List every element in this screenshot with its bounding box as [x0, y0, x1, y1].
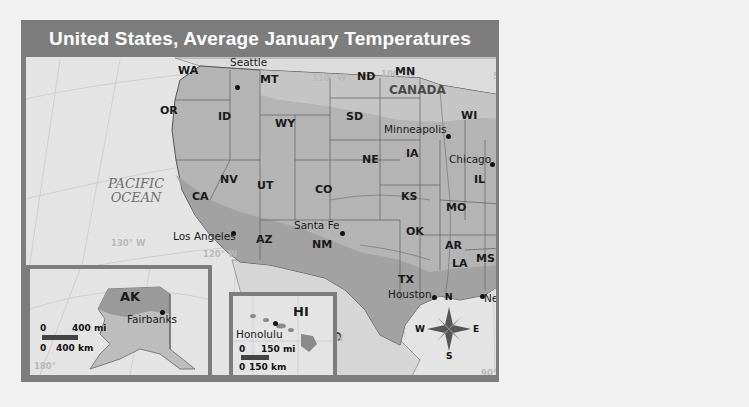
city-label-minneapolis: Minneapolis	[384, 123, 447, 135]
canada-label: CANADA	[389, 83, 446, 97]
state-label-tx: TX	[398, 273, 414, 286]
city-dot-seattle	[235, 85, 240, 90]
city-dot-honolulu	[273, 321, 278, 326]
state-label-mo: MO	[446, 201, 466, 214]
state-label-ut: UT	[257, 179, 273, 192]
grid-label: 50° N	[493, 71, 496, 81]
state-label-la: LA	[452, 257, 468, 270]
city-label-los-angeles: Los Angeles	[173, 230, 236, 242]
compass-s: S	[446, 351, 452, 361]
city-dot-santa-fe	[340, 231, 345, 236]
state-label-wi: WI	[461, 109, 477, 122]
hi-scale-zero-mi: 0	[239, 344, 245, 354]
state-label-or: OR	[160, 104, 178, 117]
city-label-honolulu: Honolulu	[236, 328, 283, 340]
hi-scale-mi: 150 mi	[261, 344, 295, 354]
hi-scale-zero-km: 0	[239, 362, 245, 372]
state-label-ia: IA	[406, 147, 419, 160]
ak-scale-zero-km: 0	[40, 343, 46, 353]
state-label-ar: AR	[445, 239, 462, 252]
city-label-fairbanks: Fairbanks	[127, 313, 177, 325]
city-label-chicago: Chicago	[449, 153, 491, 165]
hi-scale-km: 150 km	[249, 362, 286, 372]
state-label-wy: WY	[275, 117, 295, 130]
grid-label: 130° W	[111, 238, 145, 248]
state-label-ok: OK	[406, 225, 424, 238]
ak-scale-bar	[42, 335, 78, 340]
state-label-il: IL	[474, 173, 485, 186]
pacific-line-2: OCEAN	[108, 191, 164, 205]
state-label-hi: HI	[293, 304, 309, 319]
map-frame: United States, Average January Temperatu…	[21, 20, 499, 382]
state-label-nm: NM	[312, 238, 332, 251]
state-label-nv: NV	[220, 173, 238, 186]
city-label-new-orleans: New Orleans	[484, 292, 496, 304]
state-label-sd: SD	[346, 110, 363, 123]
ak-scale-mi: 400 mi	[72, 323, 106, 333]
city-dot-minneapolis	[446, 134, 451, 139]
pacific-ocean-label: PACIFIC OCEAN	[108, 177, 164, 206]
compass-e: E	[473, 324, 479, 334]
city-label-santa-fe: Santa Fe	[294, 219, 340, 231]
pacific-line-1: PACIFIC	[108, 177, 164, 191]
state-label-wa: WA	[178, 64, 198, 77]
ak-scale-km: 400 km	[56, 343, 93, 353]
alaska-graphic	[30, 269, 208, 375]
compass-n: N	[445, 292, 453, 302]
compass-w: W	[415, 324, 425, 334]
state-label-ne: NE	[362, 153, 379, 166]
state-label-mt: MT	[260, 73, 278, 86]
hawaii-inset: HI Honolulu 0 150 mi 0 150 km	[229, 292, 337, 379]
map-title: United States, Average January Temperatu…	[21, 20, 499, 58]
ak-scale-zero-mi: 0	[40, 323, 46, 333]
state-label-nd: ND	[357, 70, 375, 83]
grid-label: 90° W	[481, 368, 496, 375]
state-label-ms: MS	[476, 252, 495, 265]
state-label-mn: MN	[395, 65, 415, 78]
state-label-ak: AK	[120, 289, 140, 304]
state-label-ks: KS	[401, 190, 417, 203]
state-label-id: ID	[218, 110, 231, 123]
compass-rose: N S W E	[421, 296, 477, 360]
grid-label: 120° W	[203, 249, 237, 259]
alaska-inset: AK Fairbanks 0 400 mi 0 400 km 180°	[26, 265, 212, 379]
city-label-seattle: Seattle	[230, 57, 267, 68]
state-label-ca: CA	[192, 190, 209, 203]
grid-label: 110° W	[312, 73, 346, 83]
state-label-az: AZ	[256, 233, 273, 246]
state-label-co: CO	[315, 183, 332, 196]
grid-180: 180°	[34, 361, 56, 371]
hi-scale-bar	[241, 355, 269, 360]
